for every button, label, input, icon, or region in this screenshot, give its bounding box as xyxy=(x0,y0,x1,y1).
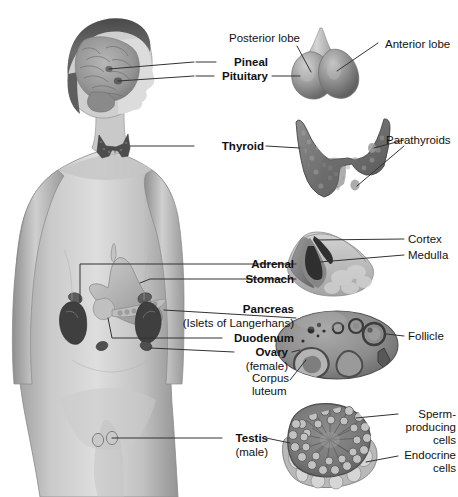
oocyte xyxy=(367,327,372,332)
label-sperm-producing-line1: Sperm- xyxy=(392,408,456,421)
label-luteum: luteum xyxy=(252,385,287,398)
label-sperm-producing-line3: cells xyxy=(382,434,456,447)
label-sperm-producing-line2: producing xyxy=(382,421,456,434)
follicle-antrum-small xyxy=(353,323,359,329)
label-thyroid: Thyroid xyxy=(180,140,264,153)
label-adrenal: Adrenal xyxy=(200,258,294,271)
label-posterior-lobe: Posterior lobe xyxy=(229,32,300,45)
label-follicle: Follicle xyxy=(408,330,444,343)
label-ovary: Ovary xyxy=(206,346,288,359)
label-endocrine-cells-line1: Endocrine xyxy=(382,449,456,462)
thyroid-inset xyxy=(296,119,390,197)
duodenum-in-body xyxy=(93,298,114,320)
ovary-highlight xyxy=(294,310,346,330)
cerebellum xyxy=(88,92,115,112)
adrenal-inset xyxy=(288,232,374,296)
label-pituitary: Pituitary xyxy=(168,70,268,83)
label-medulla: Medulla xyxy=(408,249,448,262)
thyroid-isthmus xyxy=(320,158,346,190)
tubule-lumen xyxy=(320,432,340,448)
testis-inset xyxy=(282,404,377,489)
label-cortex: Cortex xyxy=(408,233,442,246)
label-testis: Testis xyxy=(196,432,268,445)
label-testis-male: (male) xyxy=(196,446,268,459)
label-corpus: Corpus xyxy=(252,372,289,385)
label-islets-of-langerhans: (Islets of Langerhans) xyxy=(168,317,294,330)
label-parathyroids: Parathyroids xyxy=(386,134,451,147)
label-endocrine-cells-line2: cells xyxy=(382,462,456,475)
left-testis-in-body xyxy=(92,433,103,446)
endocrine-diagram: Posterior lobe Anterior lobe Pineal Pitu… xyxy=(0,0,458,497)
leader-thyroid-to-inset xyxy=(266,146,300,148)
label-anterior-lobe: Anterior lobe xyxy=(385,38,450,51)
label-duodenum: Duodenum xyxy=(196,332,294,345)
corpus-albicans xyxy=(337,351,363,377)
ovary-inset xyxy=(276,310,398,382)
label-stomach: Stomach xyxy=(200,273,294,286)
label-pineal: Pineal xyxy=(168,56,268,69)
corpus-luteum-core xyxy=(303,356,322,373)
human-figure xyxy=(12,18,184,497)
label-pancreas: Pancreas xyxy=(196,303,294,316)
